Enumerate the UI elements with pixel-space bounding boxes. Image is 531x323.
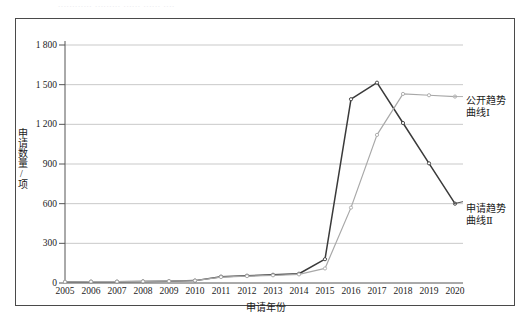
y-axis-tick-label: 600: [15, 199, 57, 209]
y-axis-tick-label: 1 800: [15, 40, 57, 50]
y-axis-tick-label: 300: [15, 238, 57, 248]
legend-series2-line1: 申请趋势: [466, 203, 506, 214]
legend-series1-line1: 公开趋势: [466, 95, 506, 106]
chart-frame: [15, 18, 515, 306]
x-axis-tick-label: 2020: [440, 286, 470, 296]
y-axis-tick-label: 900: [15, 159, 57, 169]
y-axis-tick-label: 1 500: [15, 80, 57, 90]
legend-series1-line2: 曲线Ⅰ: [466, 107, 490, 118]
legend-item-series1: 公开趋势 曲线Ⅰ: [466, 95, 506, 118]
legend-series2-line2: 曲线Ⅱ: [466, 215, 493, 226]
legend-item-series2: 申请趋势 曲线Ⅱ: [466, 203, 506, 226]
y-axis-tick-label: 1 200: [15, 119, 57, 129]
x-axis-title: 申请年份: [0, 299, 531, 314]
cut-off-text-line: ............ ......... ...... ...... ...…: [0, 0, 531, 12]
